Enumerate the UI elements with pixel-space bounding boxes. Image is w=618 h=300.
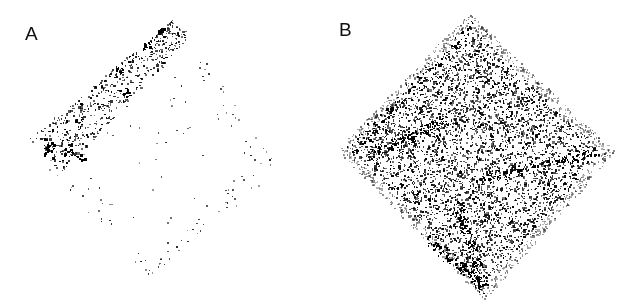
panel-b: B bbox=[309, 0, 618, 300]
speckle-image-b bbox=[309, 0, 618, 300]
panel-label-a: A bbox=[25, 24, 38, 43]
panel-label-b: B bbox=[339, 20, 352, 39]
speckle-image-a bbox=[0, 0, 309, 300]
panel-a: A bbox=[0, 0, 309, 300]
